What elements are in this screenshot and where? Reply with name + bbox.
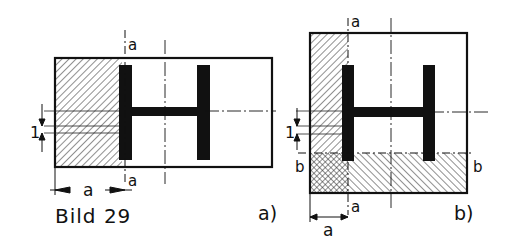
- section-label-top-a: a: [128, 36, 137, 54]
- figure-caption: Bild 29: [55, 204, 131, 228]
- width-label-a: a: [83, 180, 93, 200]
- section-label-bottom-a: a: [128, 172, 137, 190]
- hatched-section-a: [55, 58, 122, 167]
- thickness-label-a: 1: [30, 123, 40, 142]
- figure-label-b: b): [454, 202, 473, 224]
- figure-a: 1 a a a a): [30, 30, 277, 224]
- thickness-label-b: 1: [285, 123, 295, 142]
- section-label-b-right: b: [473, 158, 483, 176]
- figure-b: 1 a a a b b b): [285, 13, 488, 240]
- diagram-canvas: 1 a a a a) Bild 29: [0, 0, 516, 248]
- section-label-top-b: a: [351, 13, 360, 31]
- h-beam-a: [119, 65, 210, 160]
- section-label-bottom-b: a: [351, 198, 360, 216]
- dimension-width-b: [310, 193, 348, 222]
- figure-label-a: a): [258, 202, 277, 224]
- section-label-b-left: b: [295, 158, 305, 176]
- width-label-b: a: [323, 220, 333, 240]
- hatched-section-b-b: [348, 153, 467, 193]
- h-beam-b: [342, 65, 435, 161]
